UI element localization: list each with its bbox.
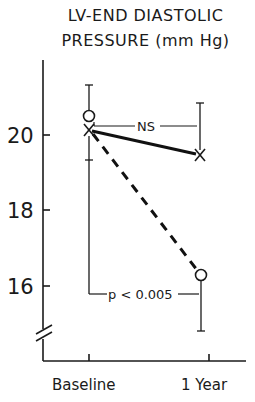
x-marker-1-year	[195, 149, 205, 161]
x-axis	[43, 354, 246, 361]
ns-annotation: NS	[137, 119, 155, 134]
y-tick-label-16: 16	[7, 275, 34, 299]
y-axis	[43, 60, 50, 361]
circle-marker-baseline	[84, 111, 95, 122]
series-x-solid-line	[92, 131, 196, 154]
circle-marker-1-year	[196, 270, 207, 281]
chart-plot: 20 18 16 Baseline 1 Year NS	[0, 0, 255, 402]
x-tick-label-1-year: 1 Year	[181, 376, 228, 394]
p-value-annotation: p < 0.005	[108, 287, 173, 302]
y-tick-label-18: 18	[7, 199, 34, 223]
series-circle-dashed-line	[93, 134, 197, 270]
y-axis-break	[36, 325, 52, 341]
y-tick-label-20: 20	[7, 124, 34, 148]
x-tick-label-baseline: Baseline	[52, 376, 116, 394]
